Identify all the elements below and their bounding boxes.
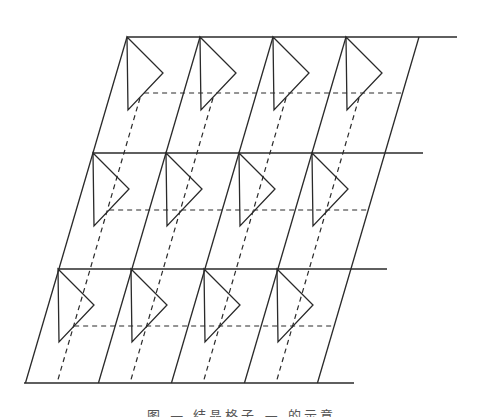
cell-triangle — [58, 269, 94, 342]
dashed-slanted-line — [203, 98, 286, 383]
slanted-boundary-line — [244, 37, 346, 383]
cell-triangle — [273, 37, 309, 110]
cell-triangles — [58, 37, 382, 342]
cell-triangle — [346, 37, 382, 110]
cell-triangle — [131, 269, 167, 342]
dashed-slanted-line — [130, 98, 213, 383]
cell-triangle — [204, 269, 240, 342]
slanted-boundary-line — [317, 37, 419, 383]
cell-triangle — [239, 153, 275, 226]
cell-triangle — [200, 37, 236, 110]
cell-triangle — [277, 269, 313, 342]
cell-triangle — [166, 153, 202, 226]
dashed-slanted-line — [276, 98, 359, 383]
cell-triangle — [312, 153, 348, 226]
cell-triangle — [93, 153, 129, 226]
cell-triangle — [127, 37, 163, 110]
figure-caption: 图 — 结晶格子 — 的示意 — [0, 406, 483, 417]
lattice-solid-lines — [24, 37, 457, 383]
dashed-slanted-line — [57, 98, 140, 383]
lattice-dashed-lines — [57, 93, 403, 383]
lattice-diagram — [0, 0, 483, 417]
